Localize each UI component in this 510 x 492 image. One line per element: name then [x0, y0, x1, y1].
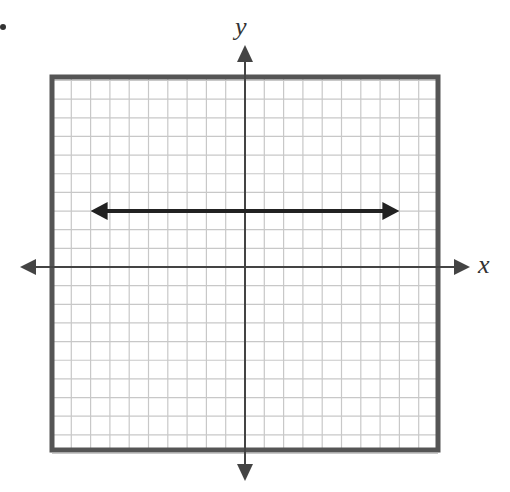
- y-axis-down-arrow-icon: [237, 464, 253, 481]
- line-left-arrow-icon: [91, 202, 108, 220]
- problem-bullet: [0, 24, 6, 30]
- y-axis-label: y: [235, 14, 247, 40]
- y-axis-up-arrow-icon: [237, 45, 253, 62]
- x-axis-right-arrow-icon: [454, 259, 470, 275]
- coordinate-grid: [0, 0, 510, 492]
- x-axis-label: x: [478, 252, 490, 278]
- line-right-arrow-icon: [382, 202, 399, 220]
- x-axis-left-arrow-icon: [20, 259, 36, 275]
- coordinate-plane-figure: y x: [0, 0, 510, 492]
